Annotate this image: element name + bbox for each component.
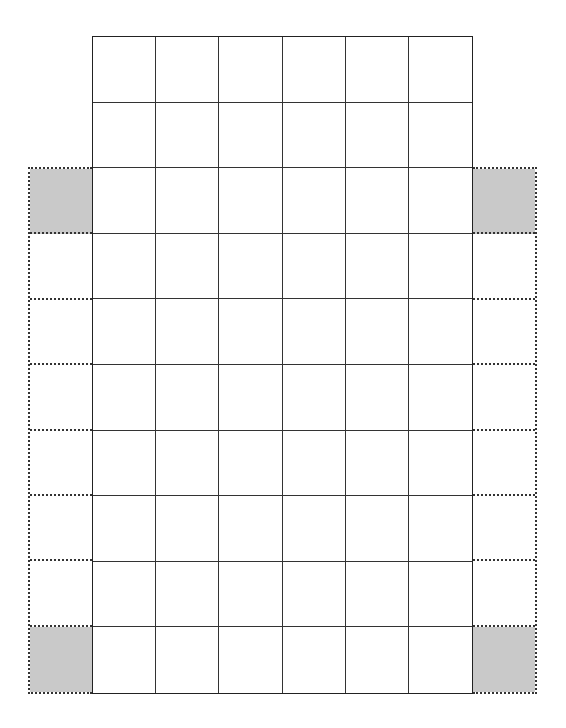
right-side-cell-r7: [473, 431, 535, 496]
grid-cell-r6-c6: [409, 365, 472, 431]
grid-cell-r1-c3: [219, 37, 282, 103]
grid-cell-r8-c2: [156, 496, 219, 562]
grid-cell-r1-c6: [409, 37, 472, 103]
grid-cell-r10-c2: [156, 627, 219, 693]
left-side-cell-r8: [30, 496, 92, 561]
grid-cell-r10-c3: [219, 627, 282, 693]
grid-cell-r9-c4: [283, 562, 346, 628]
right-side-cell-r9: [473, 561, 535, 626]
right-side-cell-r10: [473, 627, 535, 692]
grid-cell-r4-c5: [346, 234, 409, 300]
grid-cell-r8-c3: [219, 496, 282, 562]
grid-cell-r10-c1: [93, 627, 156, 693]
grid-cell-r2-c3: [219, 103, 282, 169]
left-side-cell-r7: [30, 431, 92, 496]
grid-cell-r8-c1: [93, 496, 156, 562]
left-side-cell-r5: [30, 300, 92, 365]
main-grid: [92, 36, 473, 694]
grid-cell-r4-c3: [219, 234, 282, 300]
left-side-cell-r4: [30, 234, 92, 299]
right-side-cell-r8: [473, 496, 535, 561]
grid-cell-r3-c1: [93, 168, 156, 234]
left-side-cell-r3: [30, 169, 92, 234]
grid-cell-r7-c3: [219, 431, 282, 497]
grid-cell-r5-c1: [93, 299, 156, 365]
left-side-cell-r6: [30, 365, 92, 430]
grid-cell-r9-c2: [156, 562, 219, 628]
right-side-cell-r3: [473, 169, 535, 234]
grid-cell-r3-c4: [283, 168, 346, 234]
grid-cell-r6-c2: [156, 365, 219, 431]
grid-cell-r10-c4: [283, 627, 346, 693]
grid-cell-r7-c6: [409, 431, 472, 497]
left-side-column: [28, 167, 92, 694]
grid-cell-r1-c1: [93, 37, 156, 103]
grid-cell-r3-c2: [156, 168, 219, 234]
right-side-cell-r4: [473, 234, 535, 299]
grid-cell-r9-c1: [93, 562, 156, 628]
left-side-cell-r9: [30, 561, 92, 626]
grid-cell-r5-c4: [283, 299, 346, 365]
grid-cell-r6-c3: [219, 365, 282, 431]
grid-cell-r1-c4: [283, 37, 346, 103]
grid-cell-r9-c6: [409, 562, 472, 628]
grid-cell-r9-c5: [346, 562, 409, 628]
grid-cell-r2-c1: [93, 103, 156, 169]
grid-cell-r8-c6: [409, 496, 472, 562]
grid-cell-r4-c6: [409, 234, 472, 300]
grid-cell-r8-c5: [346, 496, 409, 562]
grid-cell-r1-c2: [156, 37, 219, 103]
grid-cell-r7-c5: [346, 431, 409, 497]
grid-cell-r10-c5: [346, 627, 409, 693]
left-side-cell-r10: [30, 627, 92, 692]
right-side-column: [473, 167, 537, 694]
grid-cell-r10-c6: [409, 627, 472, 693]
right-side-cell-r5: [473, 300, 535, 365]
grid-cell-r3-c6: [409, 168, 472, 234]
grid-cell-r3-c5: [346, 168, 409, 234]
grid-cell-r7-c4: [283, 431, 346, 497]
grid-cell-r7-c1: [93, 431, 156, 497]
grid-cell-r9-c3: [219, 562, 282, 628]
grid-cell-r5-c2: [156, 299, 219, 365]
grid-cell-r2-c5: [346, 103, 409, 169]
grid-cell-r8-c4: [283, 496, 346, 562]
grid-cell-r6-c1: [93, 365, 156, 431]
grid-cell-r5-c6: [409, 299, 472, 365]
grid-cell-r6-c4: [283, 365, 346, 431]
right-side-cell-r6: [473, 365, 535, 430]
grid-cell-r7-c2: [156, 431, 219, 497]
grid-cell-r5-c5: [346, 299, 409, 365]
grid-diagram: [0, 0, 566, 728]
grid-cell-r4-c2: [156, 234, 219, 300]
grid-cell-r4-c1: [93, 234, 156, 300]
grid-cell-r2-c2: [156, 103, 219, 169]
grid-cell-r4-c4: [283, 234, 346, 300]
grid-cell-r3-c3: [219, 168, 282, 234]
grid-cell-r2-c4: [283, 103, 346, 169]
grid-cell-r1-c5: [346, 37, 409, 103]
grid-cell-r6-c5: [346, 365, 409, 431]
grid-cell-r5-c3: [219, 299, 282, 365]
grid-cell-r2-c6: [409, 103, 472, 169]
